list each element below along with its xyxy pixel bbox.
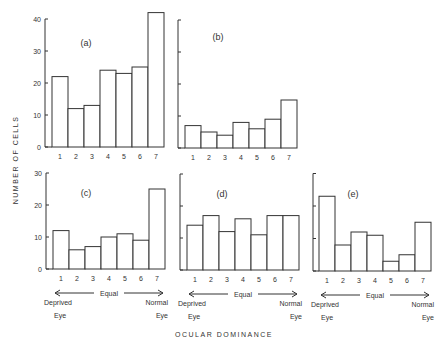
x-tick-label: 4	[241, 276, 245, 283]
x-tick-label: 4	[239, 154, 243, 161]
histogram-bar	[117, 234, 133, 269]
panel-label: (a)	[81, 38, 92, 48]
ocular-dominance-figure: NUMBER OF CELLS OCULAR DOMINANCE 0102030…	[0, 0, 448, 350]
histogram-bar	[415, 222, 431, 271]
x-tick-label: 2	[75, 275, 79, 282]
x-tick-label: 4	[373, 277, 377, 284]
x-tick-label: 5	[389, 277, 393, 284]
deprived-eye-label: Deprived	[44, 299, 72, 307]
histogram-bar	[85, 247, 101, 269]
x-tick-label: 2	[74, 153, 78, 160]
equal-label: Equal	[100, 290, 118, 298]
deprived-eye-label: Deprived	[178, 300, 206, 308]
histogram-bar	[251, 235, 267, 270]
x-tick-label: 7	[155, 275, 159, 282]
panel-a: 0102030401234567(a)	[33, 13, 164, 160]
histogram-bar	[319, 196, 335, 271]
x-tick-label: 7	[289, 276, 293, 283]
histogram-bar	[283, 216, 299, 270]
histogram-bar	[203, 216, 219, 270]
histogram-bar	[148, 13, 164, 147]
x-tick-label: 2	[209, 276, 213, 283]
x-tick-label: 5	[255, 154, 259, 161]
x-tick-label: 1	[58, 153, 62, 160]
normal-eye-label-2: Eye	[156, 312, 168, 320]
histogram-bar	[69, 250, 85, 269]
equal-label: Equal	[366, 292, 384, 300]
panel-d: 1234567(d)EqualDeprivedEyeNormalEye	[178, 174, 302, 321]
histogram-bar	[201, 132, 217, 148]
y-tick-label: 20	[34, 202, 42, 209]
normal-eye-label: Normal	[145, 299, 168, 306]
histogram-bar	[84, 105, 100, 147]
x-tick-label: 3	[357, 277, 361, 284]
x-axis-label: OCULAR DOMINANCE	[175, 331, 273, 338]
panels-group: 0102030401234567(a)1234567(b)01020301234…	[33, 13, 434, 322]
deprived-eye-label: Deprived	[311, 301, 339, 309]
histogram-bar	[233, 122, 249, 148]
x-tick-label: 7	[421, 277, 425, 284]
histogram-bar	[187, 225, 203, 270]
deprived-eye-label-2: Eye	[321, 314, 333, 322]
panel-b: 1234567(b)	[178, 20, 297, 161]
histogram-bar	[217, 135, 233, 148]
y-tick-label: 0	[37, 144, 41, 151]
y-tick-label: 30	[34, 170, 42, 177]
histogram-bar	[53, 231, 69, 269]
x-tick-label: 6	[139, 275, 143, 282]
y-tick-label: 10	[33, 112, 41, 119]
deprived-eye-label-2: Eye	[54, 312, 66, 320]
histogram-bar	[249, 129, 265, 148]
x-tick-label: 2	[341, 277, 345, 284]
panel-label: (b)	[213, 32, 224, 42]
panel-c: 01020301234567(c)EqualDeprivedEyeNormalE…	[34, 170, 168, 321]
panel-label: (d)	[217, 189, 228, 199]
histogram-bar	[235, 219, 251, 270]
histogram-bar	[101, 237, 117, 269]
histogram-bar	[116, 73, 132, 147]
x-tick-label: 3	[223, 154, 227, 161]
x-tick-label: 4	[106, 153, 110, 160]
histogram-bar	[265, 119, 281, 148]
histogram-bar	[367, 235, 383, 271]
histogram-bar	[281, 100, 297, 148]
panel-label: (e)	[348, 189, 359, 199]
x-tick-label: 5	[122, 153, 126, 160]
histogram-bar	[149, 189, 165, 269]
x-tick-label: 1	[325, 277, 329, 284]
y-tick-label: 10	[34, 234, 42, 241]
y-tick-label: 0	[38, 266, 42, 273]
x-tick-label: 5	[123, 275, 127, 282]
x-tick-label: 1	[191, 154, 195, 161]
histogram-bar	[335, 245, 351, 271]
normal-eye-label-2: Eye	[290, 313, 302, 321]
panel-e: 1234567(e)EqualDeprivedEyeNormalEye	[311, 174, 434, 323]
y-tick-label: 30	[33, 48, 41, 55]
histogram-bar	[351, 232, 367, 271]
x-tick-label: 4	[107, 275, 111, 282]
histogram-bar	[383, 261, 399, 271]
histogram-bar	[219, 232, 235, 270]
normal-eye-label: Normal	[279, 300, 302, 307]
histogram-panels: NUMBER OF CELLS OCULAR DOMINANCE 0102030…	[0, 0, 448, 350]
histogram-bar	[52, 77, 68, 147]
x-tick-label: 3	[90, 153, 94, 160]
x-tick-label: 3	[225, 276, 229, 283]
x-tick-label: 6	[273, 276, 277, 283]
normal-eye-label-2: Eye	[422, 314, 434, 322]
x-tick-label: 6	[271, 154, 275, 161]
y-axis-label: NUMBER OF CELLS	[12, 116, 19, 205]
x-tick-label: 7	[287, 154, 291, 161]
x-tick-label: 1	[59, 275, 63, 282]
x-tick-label: 6	[138, 153, 142, 160]
panel-label: (c)	[81, 188, 92, 198]
histogram-bar	[100, 70, 116, 147]
histogram-bar	[185, 126, 201, 148]
deprived-eye-label-2: Eye	[188, 313, 200, 321]
y-tick-label: 40	[33, 16, 41, 23]
histogram-bar	[68, 109, 84, 147]
x-tick-label: 6	[405, 277, 409, 284]
equal-label: Equal	[234, 291, 252, 299]
x-tick-label: 7	[154, 153, 158, 160]
histogram-bar	[133, 240, 149, 269]
